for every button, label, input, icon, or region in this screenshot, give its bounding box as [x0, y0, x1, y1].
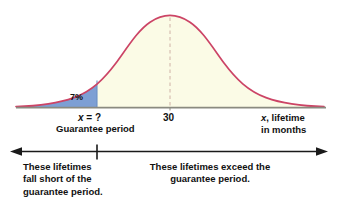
normal-distribution-figure: 7% x = ? Guarantee period 30 x, lifetime…	[0, 0, 338, 202]
x-axis-label-line1: x, lifetime	[261, 112, 306, 124]
guarantee-tick-label: x = ?	[78, 112, 101, 123]
x-axis-label: x, lifetime in months	[261, 112, 306, 136]
percent-annotation: 7%	[70, 92, 83, 102]
x-axis-label-line1-rest: , lifetime	[266, 112, 305, 123]
right-bracket-annotation-line2: guarantee period.	[135, 173, 285, 185]
right-bracket-annotation-line1: These lifetimes exceed the	[135, 161, 285, 173]
distribution-body-fill	[16, 15, 324, 107]
left-bracket-annotation: These lifetimes fall short of the guaran…	[23, 161, 123, 198]
annotation-arrow-left-head	[10, 147, 22, 155]
guarantee-tick-value: = ?	[84, 112, 102, 123]
right-bracket-annotation: These lifetimes exceed the guarantee per…	[135, 161, 285, 186]
mean-tick-label: 30	[163, 112, 174, 123]
left-bracket-annotation-line3: guarantee period.	[23, 186, 123, 198]
left-bracket-annotation-line1: These lifetimes	[23, 161, 123, 173]
left-bracket-annotation-line2: fall short of the	[23, 173, 123, 185]
annotation-arrow-right-head	[316, 147, 328, 155]
x-axis-label-line2: in months	[261, 124, 306, 136]
guarantee-period-caption: Guarantee period	[56, 124, 135, 135]
